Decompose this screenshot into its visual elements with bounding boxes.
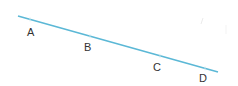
scan-artifact-mark: [201, 18, 203, 24]
point-label-b: B: [84, 42, 91, 53]
line-segment: [18, 16, 218, 72]
point-label-a: A: [27, 27, 34, 38]
point-label-d: D: [199, 73, 207, 84]
point-label-c: C: [153, 62, 161, 73]
